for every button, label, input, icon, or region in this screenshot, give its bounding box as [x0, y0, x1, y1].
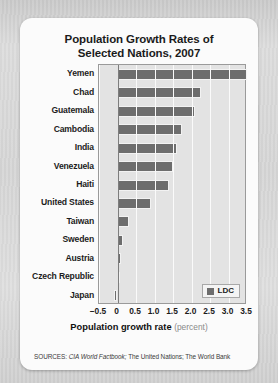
- category-label: Cambodia: [54, 124, 94, 134]
- x-axis-title: Population growth rate (percent): [20, 322, 258, 333]
- chart-card: Population Growth Rates of Selected Nati…: [20, 18, 258, 370]
- chart-legend: LDC: [202, 284, 240, 298]
- gridline: [229, 65, 230, 303]
- bar: [118, 106, 196, 117]
- bar: [118, 143, 177, 154]
- gridline: [99, 65, 100, 303]
- tick-label: 1.0: [148, 306, 160, 316]
- gridline: [192, 65, 193, 303]
- gridline: [136, 65, 137, 303]
- category-label: United States: [41, 197, 94, 207]
- gridline: [247, 65, 248, 303]
- x-axis-unit: (percent): [174, 322, 208, 332]
- sources-rest: The United Nations; The World Bank: [128, 353, 230, 360]
- chart-title: Population Growth Rates of Selected Nati…: [36, 32, 242, 60]
- category-label: Venezuela: [54, 161, 94, 171]
- bar: [118, 198, 151, 209]
- category-axis-labels: YemenChadGuatemalaCambodiaIndiaVenezuela…: [20, 64, 98, 304]
- category-label: Austria: [65, 253, 94, 263]
- tick-label: 0: [114, 306, 119, 316]
- sources-italic: CIA World Factbook;: [69, 353, 127, 360]
- category-label: Guatemala: [51, 105, 94, 115]
- category-label: Chad: [73, 87, 94, 97]
- category-label: Czech Republic: [32, 271, 94, 281]
- plot-area: LDC: [98, 64, 246, 304]
- bar: [118, 161, 174, 172]
- bar: [118, 180, 170, 191]
- chart-title-line-1: Population Growth Rates of: [65, 33, 214, 45]
- legend-label-ldc: LDC: [218, 287, 234, 295]
- tick-label: 2.0: [185, 306, 197, 316]
- category-label: Sweden: [62, 234, 94, 244]
- category-label: Taiwan: [66, 216, 94, 226]
- category-label: Yemen: [67, 68, 94, 78]
- legend-swatch-ldc: [207, 288, 214, 295]
- tick-label: 1.5: [166, 306, 178, 316]
- category-label: Japan: [70, 290, 94, 300]
- category-label: Haiti: [76, 179, 94, 189]
- gridline: [155, 65, 156, 303]
- bar: [118, 87, 201, 98]
- x-axis-title-text: Population growth rate: [70, 322, 171, 332]
- tick-label: 3.0: [222, 306, 234, 316]
- category-label: India: [75, 142, 94, 152]
- gridline: [173, 65, 174, 303]
- chart-area: YemenChadGuatemalaCambodiaIndiaVenezuela…: [20, 64, 258, 322]
- value-axis-ticks: –0.500.51.01.52.02.53.03.5: [98, 306, 246, 318]
- tick-label: 2.5: [203, 306, 215, 316]
- tick-label: 3.5: [240, 306, 252, 316]
- sources-prefix: SOURCES:: [34, 353, 67, 360]
- tick-label: 0.5: [129, 306, 141, 316]
- bar: [118, 216, 129, 227]
- gridline: [210, 65, 211, 303]
- tick-label: –0.5: [90, 306, 106, 316]
- sources-note: SOURCES: CIA World Factbook; The United …: [34, 353, 248, 361]
- chart-title-line-2: Selected Nations, 2007: [36, 46, 242, 60]
- zero-axis-line: [118, 65, 119, 303]
